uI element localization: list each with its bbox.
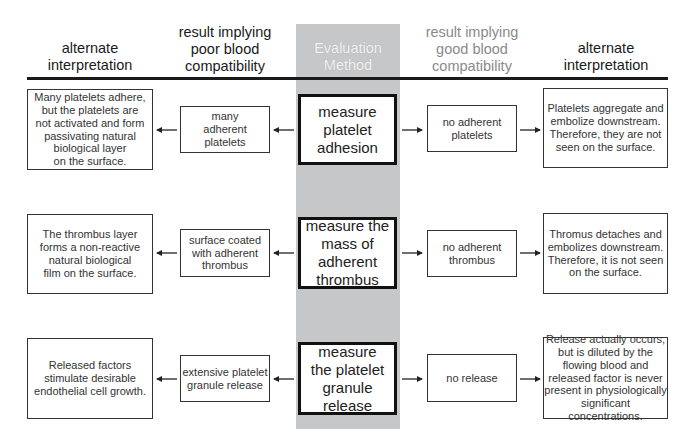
header-poor-compatibility: result implying poor blood compatibility xyxy=(165,24,285,75)
poor-compatibility-result-text: many adherent platelets xyxy=(203,110,246,148)
arrow-left-icon xyxy=(156,125,178,135)
arrow-right-icon xyxy=(519,374,541,384)
header-divider xyxy=(27,77,668,80)
good-compatibility-result-box: no release xyxy=(427,354,517,402)
evaluation-method-text: measure the mass of adherent thrombus xyxy=(306,217,389,289)
right-alternate-interpretation-text: Platelets aggregate and embolize downstr… xyxy=(547,102,663,153)
arrow-left-icon xyxy=(273,248,295,258)
right-alternate-interpretation-text: Thromus detaches and embolizes downstrea… xyxy=(548,228,664,279)
evaluation-method-text: measure the platelet granule release xyxy=(311,343,384,415)
poor-compatibility-result-box: extensive platelet granule release xyxy=(180,355,270,402)
left-alternate-interpretation-text: The thrombus layer forms a non-reactive … xyxy=(40,228,140,279)
poor-compatibility-result-box: many adherent platelets xyxy=(180,106,270,153)
arrow-right-icon xyxy=(519,125,541,135)
evaluation-method-box: measure the mass of adherent thrombus xyxy=(298,217,397,289)
poor-compatibility-result-text: surface coated with adherent thrombus xyxy=(189,234,261,272)
right-alternate-interpretation-text: Release actually occurs, but is diluted … xyxy=(544,333,667,423)
header-good-compatibility: result implying good blood compatibility xyxy=(412,24,532,75)
left-alternate-interpretation-box: Many platelets adhere, but the platelets… xyxy=(27,89,153,170)
arrow-right-icon xyxy=(519,248,541,258)
good-compatibility-result-text: no release xyxy=(446,372,497,385)
arrow-right-icon xyxy=(401,374,423,384)
good-compatibility-result-text: no adherent platelets xyxy=(443,116,502,142)
evaluation-method-box: measure platelet adhesion xyxy=(298,94,397,165)
right-alternate-interpretation-box: Platelets aggregate and embolize downstr… xyxy=(543,88,668,168)
good-compatibility-result-box: no adherent platelets xyxy=(427,105,517,152)
left-alternate-interpretation-text: Many platelets adhere, but the platelets… xyxy=(34,91,145,168)
left-alternate-interpretation-box: Released factors stimulate desirable end… xyxy=(27,338,153,419)
arrow-right-icon xyxy=(401,125,423,135)
poor-compatibility-result-text: extensive platelet granule release xyxy=(183,366,268,392)
header-right-alternate-interpretation: alternate interpretation xyxy=(543,40,669,74)
poor-compatibility-result-box: surface coated with adherent thrombus xyxy=(180,229,270,277)
arrow-left-icon xyxy=(273,125,295,135)
good-compatibility-result-box: no adherent thrombus xyxy=(427,230,517,277)
right-alternate-interpretation-box: Thromus detaches and embolizes downstrea… xyxy=(543,213,668,294)
arrow-left-icon xyxy=(156,374,178,384)
arrow-left-icon xyxy=(273,374,295,384)
header-left-alternate-interpretation: alternate interpretation xyxy=(27,40,153,74)
left-alternate-interpretation-box: The thrombus layer forms a non-reactive … xyxy=(27,214,153,294)
arrow-left-icon xyxy=(156,248,178,258)
evaluation-method-box: measure the platelet granule release xyxy=(298,342,397,415)
good-compatibility-result-text: no adherent thrombus xyxy=(443,241,502,267)
header-evaluation-method: Evaluation Method xyxy=(296,40,400,74)
evaluation-method-text: measure platelet adhesion xyxy=(317,103,378,157)
left-alternate-interpretation-text: Released factors stimulate desirable end… xyxy=(34,359,146,397)
arrow-right-icon xyxy=(401,248,423,258)
right-alternate-interpretation-box: Release actually occurs, but is diluted … xyxy=(543,337,668,419)
